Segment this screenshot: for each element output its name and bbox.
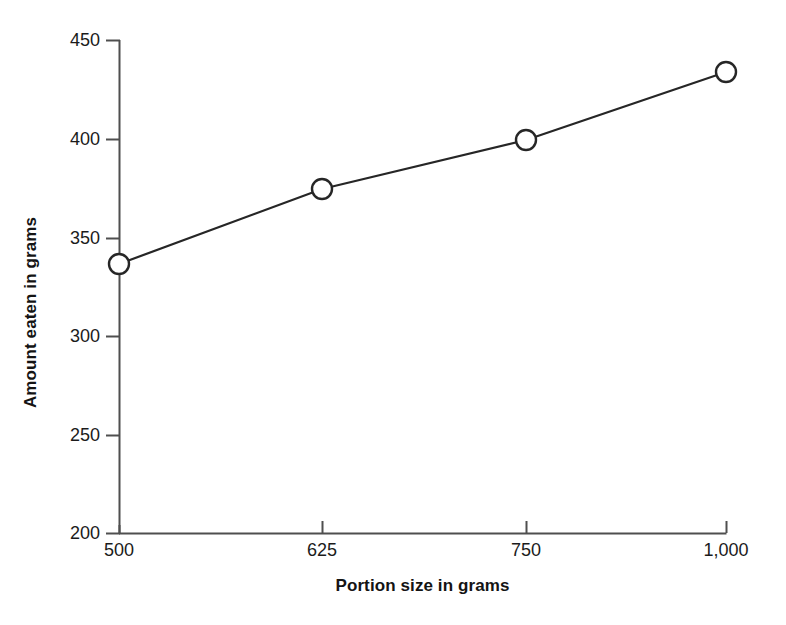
chart-figure: Amount eaten in grams Portion size in gr… <box>0 0 786 625</box>
y-tick-marks <box>106 41 120 534</box>
data-point-500 <box>109 254 129 274</box>
x-tick-marks <box>120 521 727 533</box>
data-line-series-1 <box>119 72 726 264</box>
data-point-markers <box>109 62 736 274</box>
plot-area <box>0 0 786 625</box>
data-point-625 <box>312 179 332 199</box>
data-point-750 <box>516 130 536 150</box>
data-point-1000 <box>716 62 736 82</box>
